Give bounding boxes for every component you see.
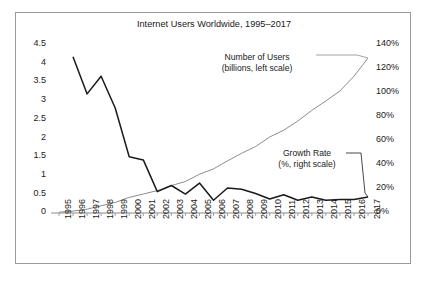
x-axis-tick-label: 2001: [147, 199, 157, 219]
x-axis-tick-label: 2009: [259, 199, 269, 219]
x-axis-tick-label: 2013: [315, 199, 325, 219]
x-axis-tick-label: 2002: [161, 199, 171, 219]
growth-leader-line: [346, 153, 368, 197]
series-line-number-of-users: [59, 58, 368, 212]
x-axis-tick-label: 2003: [175, 199, 185, 219]
x-axis-tick-label: 2007: [231, 199, 241, 219]
x-axis-tick-label: 1998: [105, 199, 115, 219]
x-axis-tick-label: 2010: [273, 199, 283, 219]
x-axis-tick-label: 1996: [77, 199, 87, 219]
x-axis-tick-label: 2016: [357, 199, 367, 219]
x-axis-tick-label: 2006: [217, 199, 227, 219]
chart-frame: Internet Users Worldwide, 1995–2017 4.5 …: [15, 12, 411, 264]
x-axis-tick-label: 2004: [189, 199, 199, 219]
x-axis-tick-label: 2011: [287, 200, 297, 219]
x-axis-tick-label: 2000: [133, 199, 143, 219]
x-axis-tick-label: 1995: [63, 199, 73, 219]
x-axis-tick-label: 1999: [119, 199, 129, 219]
x-axis-tick-label: 2008: [245, 199, 255, 219]
x-axis-tick-label: 2012: [301, 199, 311, 219]
x-axis-tick-label: 2014: [329, 199, 339, 219]
series-line-growth-rate: [73, 57, 368, 201]
x-axis-tick-label: 1997: [91, 199, 101, 219]
users-leader-line: [316, 55, 368, 58]
x-axis-tick-label: 2015: [343, 199, 353, 219]
x-axis-tick-label: 2005: [203, 199, 213, 219]
x-axis-tick-label: 2017: [372, 199, 382, 219]
plot-area: [16, 13, 412, 265]
